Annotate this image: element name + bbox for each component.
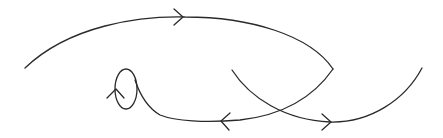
curve-diagram — [0, 0, 443, 138]
small-loop — [115, 69, 137, 109]
lower-return-curve — [135, 69, 333, 121]
diagram-canvas — [0, 0, 443, 138]
upper-arc — [25, 17, 333, 69]
